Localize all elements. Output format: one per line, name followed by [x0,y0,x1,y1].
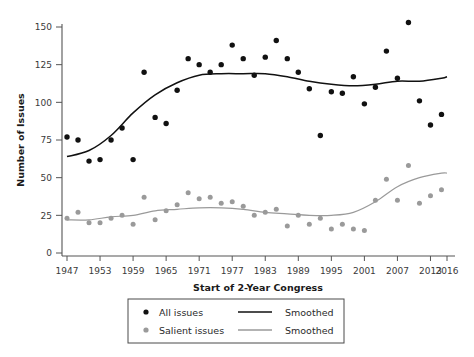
data-point [230,42,235,47]
data-point [131,222,136,227]
legend-label-salient-issues: Salient issues [159,325,224,336]
data-point [152,115,157,120]
chart-figure: 0255075100125150 19471953195919651971197… [0,0,474,357]
x-tick-label: 1953 [89,266,112,276]
data-point [241,204,246,209]
data-point [318,133,323,138]
data-point [86,158,91,163]
x-tick-label: 1947 [56,266,79,276]
data-point [428,193,433,198]
data-point [406,20,411,25]
data-point [185,56,190,61]
data-point [196,62,201,67]
legend: All issues Smoothed Salient issues Smoot… [128,299,344,343]
x-tick-label: 1965 [155,266,178,276]
legend-label-all-issues: All issues [159,307,203,318]
data-point [373,85,378,90]
data-point [307,222,312,227]
data-point [285,223,290,228]
data-point [439,112,444,117]
data-point [219,201,224,206]
data-point [175,202,180,207]
data-point [120,213,125,218]
data-point [252,213,257,218]
y-tick-label: 50 [41,173,53,183]
data-point [230,199,235,204]
data-point [208,195,213,200]
data-point [362,228,367,233]
x-tick-label: 2007 [386,266,409,276]
legend-label-smoothed-all: Smoothed [285,307,334,318]
x-tick-label: 2001 [353,266,376,276]
data-point [219,62,224,67]
x-tick-label: 1971 [188,266,211,276]
y-tick-label: 25 [41,211,52,221]
data-point [351,74,356,79]
data-point [340,91,345,96]
x-tick-label: 1989 [287,266,310,276]
data-point [87,220,92,225]
data-point [417,98,422,103]
data-point [274,207,279,212]
legend-label-smoothed-salient: Smoothed [285,325,334,336]
data-point [307,86,312,91]
data-point [97,157,102,162]
y-tick-label: 150 [35,22,52,32]
y-tick-label: 0 [46,248,52,258]
data-point [241,56,246,61]
data-point [263,54,268,59]
data-point [197,196,202,201]
data-point [285,56,290,61]
data-point [439,187,444,192]
data-point [98,220,103,225]
x-tick-label: 1977 [221,266,244,276]
data-point [64,134,69,139]
x-tick-label: 2016 [436,266,459,276]
x-tick-label: 1995 [320,266,343,276]
data-point [274,38,279,43]
x-tick-label: 1983 [254,266,277,276]
y-axis-label: Number of Issues [15,93,26,187]
data-point [362,101,367,106]
y-tick-label: 100 [35,98,52,108]
data-point [406,163,411,168]
x-tick-label: 1959 [122,266,145,276]
data-point [329,89,334,94]
data-point [141,70,146,75]
data-point [163,121,168,126]
data-point [351,226,356,231]
data-point [174,88,179,93]
data-point [384,48,389,53]
data-point [384,177,389,182]
data-point [130,157,135,162]
data-point [428,122,433,127]
data-point [186,190,191,195]
data-point [340,222,345,227]
data-point [153,217,158,222]
data-point [417,201,422,206]
x-axis-label: Start of 2-Year Congress [193,282,323,293]
data-point [142,195,147,200]
y-tick-label: 75 [41,135,52,145]
legend-marker-salient-issues [143,327,148,332]
data-point [318,216,323,221]
data-point [296,70,301,75]
data-point [395,76,400,81]
data-point [329,226,334,231]
data-point [108,137,113,142]
data-point [76,210,81,215]
data-point [395,198,400,203]
data-point [164,208,169,213]
y-tick-label: 125 [35,60,52,70]
data-point [75,137,80,142]
legend-marker-all-issues [143,309,148,314]
